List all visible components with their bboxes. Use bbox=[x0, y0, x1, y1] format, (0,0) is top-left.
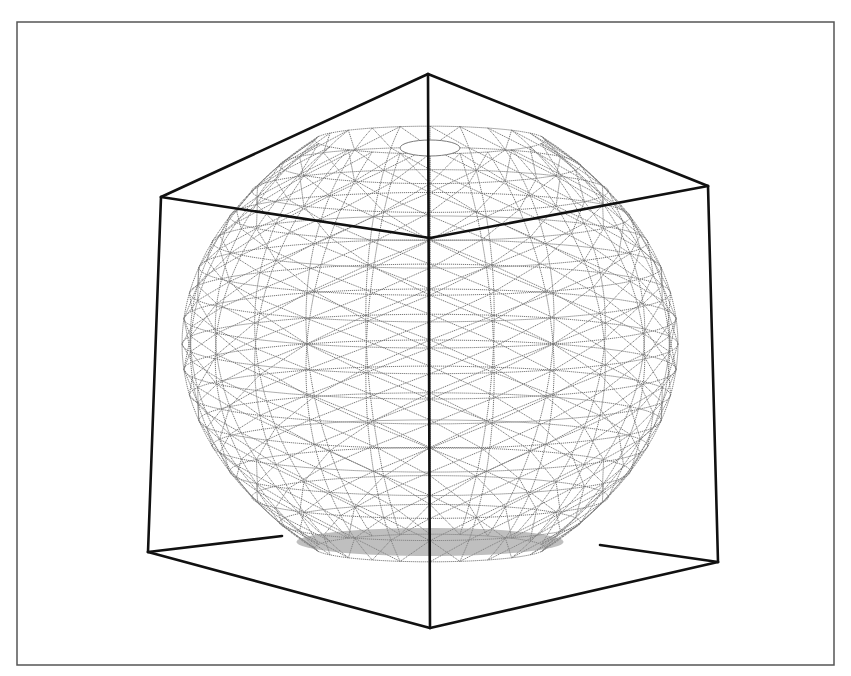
mesh-line bbox=[505, 150, 511, 181]
mesh-line bbox=[492, 395, 553, 423]
mesh-line bbox=[561, 175, 603, 197]
mesh-line bbox=[430, 496, 476, 518]
cube-edge-left_top-back_top bbox=[161, 197, 430, 238]
mesh-line bbox=[430, 421, 486, 448]
mesh-line bbox=[602, 460, 603, 492]
mesh-line bbox=[494, 373, 553, 395]
mesh-line bbox=[355, 476, 384, 507]
mesh-line bbox=[255, 323, 307, 344]
mesh-line bbox=[630, 407, 640, 440]
mesh-line bbox=[255, 344, 307, 365]
mesh-line bbox=[494, 370, 554, 398]
mesh-line bbox=[430, 348, 494, 373]
mesh-line bbox=[602, 197, 603, 229]
mesh-line bbox=[366, 322, 430, 347]
mesh-line bbox=[276, 224, 315, 244]
mesh-line bbox=[372, 128, 391, 148]
mesh-line bbox=[267, 420, 310, 440]
mesh-line bbox=[553, 344, 600, 375]
mesh-line bbox=[643, 333, 669, 351]
mesh-line bbox=[304, 181, 355, 206]
mesh-line bbox=[256, 229, 276, 261]
mesh-line bbox=[267, 401, 322, 424]
mesh-line bbox=[191, 333, 217, 351]
mesh-line bbox=[494, 290, 554, 318]
mesh-line bbox=[256, 460, 257, 492]
mesh-line bbox=[581, 503, 603, 523]
mesh-line bbox=[198, 268, 199, 286]
mesh-line bbox=[241, 234, 288, 256]
mesh-line bbox=[192, 362, 222, 381]
mesh-line bbox=[230, 254, 260, 273]
mesh-line bbox=[260, 313, 307, 344]
mesh-line bbox=[460, 153, 494, 561]
mesh-line bbox=[220, 249, 230, 282]
mesh-line bbox=[314, 244, 367, 266]
mesh-line bbox=[207, 413, 242, 433]
mesh-line bbox=[276, 237, 330, 260]
mesh-line bbox=[276, 261, 315, 292]
wireframe-figure bbox=[0, 0, 851, 676]
mesh-line bbox=[476, 476, 505, 507]
mesh-line bbox=[492, 321, 553, 344]
cube-edge-left_top-left_bottom bbox=[148, 197, 161, 552]
mesh-line bbox=[486, 397, 545, 421]
mesh-line bbox=[321, 423, 378, 448]
mesh-line bbox=[430, 295, 492, 321]
mesh-line bbox=[400, 153, 430, 183]
mesh-line bbox=[661, 268, 662, 286]
cube-edge-top-left_top bbox=[161, 74, 428, 197]
mesh-line bbox=[482, 448, 519, 478]
mesh-top-opening bbox=[400, 140, 460, 156]
mesh-line bbox=[482, 193, 539, 219]
mesh-line bbox=[256, 428, 276, 460]
mesh-line bbox=[530, 237, 584, 260]
mesh-line bbox=[430, 315, 494, 340]
mesh-line bbox=[619, 223, 624, 255]
mesh-line bbox=[198, 384, 217, 402]
mesh-line bbox=[384, 496, 430, 518]
mesh-line bbox=[490, 394, 539, 424]
mesh-line bbox=[198, 254, 230, 286]
mesh-line bbox=[486, 267, 545, 291]
mesh-line bbox=[430, 471, 486, 495]
mesh-line bbox=[476, 492, 530, 517]
mesh-line bbox=[430, 241, 486, 268]
mesh-line bbox=[384, 476, 430, 504]
mesh-line bbox=[355, 127, 401, 150]
mesh-line bbox=[260, 395, 307, 415]
mesh-line bbox=[288, 469, 321, 489]
mesh-line bbox=[430, 393, 486, 421]
mesh-line bbox=[276, 180, 289, 199]
mesh-line bbox=[530, 428, 584, 451]
mesh-line bbox=[307, 265, 368, 293]
mesh-line bbox=[391, 154, 430, 183]
mesh-line bbox=[330, 471, 374, 492]
mesh-line bbox=[276, 428, 330, 451]
mesh-line bbox=[430, 373, 494, 399]
mesh-line bbox=[430, 447, 490, 472]
mesh-line bbox=[581, 166, 603, 186]
cube-edge-left_bottom-front_bottom bbox=[148, 552, 430, 628]
mesh-line bbox=[276, 178, 324, 201]
mesh-line bbox=[530, 451, 556, 482]
mesh-line bbox=[492, 265, 553, 293]
mesh-line bbox=[330, 196, 374, 217]
mesh-line bbox=[430, 267, 486, 295]
mesh-line bbox=[430, 495, 482, 519]
mesh-line bbox=[556, 175, 560, 207]
mesh-line bbox=[314, 397, 373, 421]
cube-edge-right_bottom-back_right_bottom bbox=[600, 545, 718, 562]
mesh-line bbox=[307, 344, 366, 373]
mesh-line bbox=[584, 428, 604, 460]
mesh-line bbox=[384, 184, 430, 212]
mesh-line bbox=[643, 336, 669, 354]
mesh-line bbox=[267, 265, 322, 288]
mesh-line bbox=[348, 130, 354, 150]
mesh-line bbox=[460, 153, 506, 181]
mesh-line bbox=[366, 289, 430, 315]
mesh-line bbox=[366, 348, 430, 373]
mesh-line bbox=[505, 181, 556, 206]
mesh-line bbox=[643, 352, 669, 385]
mesh-line bbox=[430, 294, 490, 322]
